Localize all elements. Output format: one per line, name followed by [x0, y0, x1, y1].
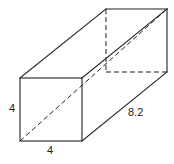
top-right-receding-edge [82, 9, 167, 78]
space-diagonal [20, 9, 167, 141]
width-label: 4 [47, 145, 53, 156]
top-left-receding-edge [20, 9, 106, 78]
front-face [20, 78, 82, 141]
height-label: 4 [9, 103, 15, 114]
length-label: 8.2 [128, 107, 143, 118]
prism-drawing [0, 0, 174, 164]
bottom-right-receding-edge [82, 72, 167, 141]
rectangular-prism-diagram: 4 4 8.2 [0, 0, 174, 164]
